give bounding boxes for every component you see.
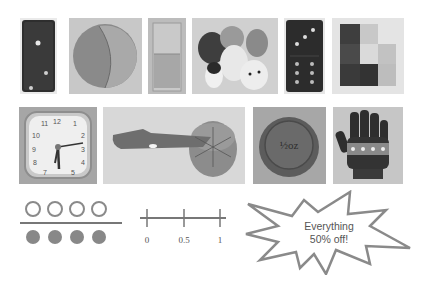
starburst-line-2: 50% off! [244, 233, 414, 246]
ball-photo [69, 18, 142, 94]
apple-slicer-photo [103, 107, 245, 184]
number-line: 0 0.5 1 [138, 205, 230, 250]
svg-text:½oz: ½oz [280, 139, 299, 151]
glove-photo [333, 107, 403, 184]
fraction-diagram [18, 197, 128, 257]
stuffed-animals-photo [192, 18, 278, 94]
tick-label-1: 1 [218, 235, 223, 245]
svg-text:11: 11 [41, 120, 48, 127]
svg-text:12: 12 [53, 118, 61, 125]
tick-label-half: 0.5 [178, 235, 189, 245]
svg-text:8: 8 [33, 159, 37, 166]
sale-starburst: Everything 50% off! [244, 190, 414, 275]
domino-photo [20, 18, 57, 94]
clock-photo: 11 12 1 10 2 9 3 8 4 7 5 [19, 107, 97, 184]
svg-text:10: 10 [32, 132, 40, 139]
tick-label-0: 0 [145, 235, 150, 245]
blocks-photo [332, 18, 404, 94]
svg-text:3: 3 [81, 146, 85, 153]
glass-photo [148, 18, 186, 94]
weight-photo: ½oz [253, 107, 326, 184]
numerator-circles [26, 202, 106, 216]
svg-text:4: 4 [81, 159, 85, 166]
svg-text:9: 9 [32, 146, 36, 153]
svg-text:2: 2 [81, 132, 85, 139]
svg-text:1: 1 [73, 120, 77, 127]
domino-photo-2 [284, 18, 325, 94]
svg-text:7: 7 [43, 169, 47, 176]
svg-text:5: 5 [71, 169, 75, 176]
denominator-circles [26, 230, 106, 244]
starburst-line-1: Everything [244, 220, 414, 233]
